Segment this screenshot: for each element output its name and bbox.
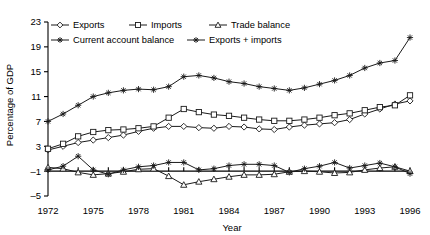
data-point-star: [271, 85, 277, 91]
data-point-star: [301, 85, 307, 91]
y-tick-label: 23: [30, 16, 41, 27]
legend: ExportsImportsTrade balanceCurrent accou…: [51, 20, 290, 45]
y-tick-label: –1: [30, 166, 41, 177]
data-point-square: [91, 129, 96, 134]
chart-container: –5–13711151923 1972197519781981198419871…: [0, 0, 430, 235]
y-tick-label: 11: [31, 91, 41, 102]
y-tick-label: 7: [36, 116, 41, 127]
x-tick-label: 1972: [37, 205, 58, 216]
data-point-star: [226, 79, 232, 85]
y-axis-title: Percentage of GDP: [4, 64, 15, 146]
data-point-star: [347, 72, 353, 78]
data-point-star: [301, 166, 307, 172]
data-point-diamond: [90, 137, 96, 143]
data-point-star: [331, 77, 337, 83]
data-point-square: [136, 126, 141, 131]
legend-item-exports[interactable]: Exports: [51, 20, 105, 30]
series-exports: [45, 98, 413, 153]
data-point-star: [377, 60, 383, 66]
data-point-star: [241, 161, 247, 167]
data-point-star: [181, 74, 187, 80]
data-point-square: [362, 108, 367, 113]
data-point-star: [392, 57, 398, 63]
series-line: [48, 95, 410, 148]
x-tick-label: 1987: [264, 205, 285, 216]
data-point-diamond: [226, 123, 232, 129]
data-point-star: [256, 84, 262, 90]
data-point-star: [226, 162, 232, 168]
data-point-star: [166, 84, 172, 90]
data-point-diamond: [316, 121, 322, 127]
data-point-square: [136, 23, 141, 28]
series-group: [45, 34, 413, 187]
data-point-star: [60, 163, 66, 169]
data-point-square: [196, 109, 201, 114]
data-point-square: [241, 115, 246, 120]
data-point-diamond: [181, 123, 187, 129]
data-point-square: [257, 117, 262, 122]
data-point-diamond: [331, 120, 337, 126]
x-tick-label: 1981: [173, 205, 194, 216]
data-point-star: [135, 164, 141, 170]
data-point-square: [45, 146, 50, 151]
legend-label: Exports: [73, 20, 105, 30]
data-point-diamond: [241, 124, 247, 130]
legend-item-imports[interactable]: Imports: [129, 20, 182, 30]
data-point-square: [121, 127, 126, 132]
series-exports-imports: [45, 34, 413, 124]
data-point-star: [105, 90, 111, 96]
data-point-star: [75, 102, 81, 108]
data-point-star: [286, 87, 292, 93]
data-point-star: [150, 162, 156, 168]
data-point-star: [120, 87, 126, 93]
data-point-star: [135, 86, 141, 92]
data-point-star: [196, 167, 202, 173]
data-point-star: [241, 80, 247, 86]
data-point-star: [316, 81, 322, 87]
data-point-square: [151, 124, 156, 129]
data-point-star: [256, 161, 262, 167]
data-point-square: [106, 127, 111, 132]
data-point-diamond: [347, 116, 353, 122]
data-point-star: [271, 162, 277, 168]
data-point-square: [347, 111, 352, 116]
line-chart: –5–13711151923 1972197519781981198419871…: [0, 0, 430, 235]
data-point-star: [362, 65, 368, 71]
data-point-square: [181, 106, 186, 111]
data-point-star: [407, 171, 413, 177]
data-point-square: [377, 105, 382, 110]
data-point-square: [226, 113, 231, 118]
data-point-star: [90, 167, 96, 173]
data-point-star: [166, 159, 172, 165]
data-point-star: [105, 171, 111, 177]
x-tick-label: 1990: [309, 205, 330, 216]
y-axis: –5–13711151923: [30, 16, 48, 201]
data-point-square: [332, 113, 337, 118]
legend-item-trade-balance[interactable]: Trade balance: [209, 20, 290, 30]
data-point-diamond: [407, 98, 413, 104]
data-point-star: [316, 163, 322, 169]
legend-label: Exports + imports: [209, 35, 282, 45]
x-axis-title: Year: [222, 222, 241, 233]
data-point-star: [150, 87, 156, 93]
data-point-square: [392, 103, 397, 108]
data-point-square: [317, 115, 322, 120]
data-point-square: [407, 93, 412, 98]
data-point-triangle: [166, 173, 172, 179]
legend-item-exports-imports[interactable]: Exports + imports: [187, 35, 282, 45]
data-point-square: [166, 115, 171, 120]
data-point-star: [407, 34, 413, 40]
data-point-square: [302, 117, 307, 122]
data-point-diamond: [286, 124, 292, 130]
data-point-star: [377, 160, 383, 166]
y-tick-label: –5: [30, 190, 41, 201]
legend-item-current-account-balance[interactable]: Current account balance: [51, 35, 174, 45]
data-point-star: [196, 72, 202, 78]
data-point-star: [362, 162, 368, 168]
data-point-diamond: [105, 134, 111, 140]
data-point-star: [120, 167, 126, 173]
y-tick-label: 19: [30, 41, 41, 52]
data-point-star: [211, 75, 217, 81]
data-point-diamond: [196, 125, 202, 131]
series-imports: [45, 93, 412, 152]
